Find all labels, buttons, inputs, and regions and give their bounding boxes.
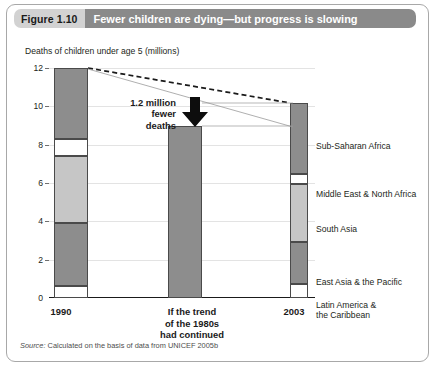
legend-item-east-asia-pacific: East Asia & the Pacific (316, 277, 402, 287)
annotation-line-2: fewer (120, 108, 176, 119)
legend-item-middle-east-north-africa: Middle East & North Africa (316, 189, 416, 199)
bar-2003-segment-sub-saharan-africa (290, 103, 308, 174)
tick-mark-4 (45, 221, 49, 222)
tick-mark-12 (45, 68, 49, 69)
tick-label-2: 2 (25, 255, 43, 265)
x-axis-label-mid-line-1: If the trend (140, 306, 244, 318)
tick-label-0: 0 (25, 293, 43, 303)
x-axis-label-mid-line-3: had continued (140, 329, 244, 341)
x-axis-label-mid-line-2: of the 1980s (140, 318, 244, 330)
annotation-line-1: 1.2 million (120, 97, 176, 108)
tick-mark-6 (45, 183, 49, 184)
bar-2003-segment-latin-america-caribbean (290, 284, 308, 298)
tick-label-12: 12 (25, 63, 43, 73)
bar-if-trend-continued (168, 126, 202, 298)
tick-label-8: 8 (25, 140, 43, 150)
bar-1990-segment-latin-america-caribbean (54, 286, 88, 298)
bar-2003-segment-south-asia (290, 184, 308, 242)
bar-2003-segment-east-asia-pacific (290, 242, 308, 284)
tick-mark-10 (45, 106, 49, 107)
bar-1990 (54, 68, 88, 298)
figure-container: Figure 1.10 Fewer children are dying—but… (0, 0, 435, 369)
y-axis-caption: Deaths of children under age 5 (millions… (25, 46, 179, 56)
legend-item-latin-america-caribbean: Latin America & the Caribbean (316, 300, 376, 320)
bar-1990-segment-east-asia-pacific (54, 223, 88, 286)
x-axis-label-if-trend-continued: If the trend of the 1980s had continued (140, 306, 244, 341)
tick-label-10: 10 (25, 101, 43, 111)
legend-item-south-asia: South Asia (316, 224, 357, 234)
figure-title: Fewer children are dying—but progress is… (85, 9, 416, 28)
figure-tag-number: 1.10 (57, 13, 78, 25)
bar-1990-segment-middle-east-north-africa (54, 139, 88, 156)
legend-item-sub-saharan-africa: Sub-Saharan Africa (316, 141, 391, 151)
figure-header: Figure 1.10 Fewer children are dying—but… (14, 9, 416, 28)
source-text: Calculated on the basis of data from UNI… (48, 341, 219, 350)
x-axis-label-1990: 1990 (31, 306, 91, 318)
bar-2003-segment-middle-east-north-africa (290, 174, 308, 184)
tick-label-6: 6 (25, 178, 43, 188)
source-label: Source: (20, 341, 45, 350)
figure-tag: Figure 1.10 (14, 9, 85, 28)
x-axis-label-2003: 2003 (268, 306, 320, 318)
tick-mark-8 (45, 145, 49, 146)
annotation-text: 1.2 million fewer deaths (120, 97, 176, 131)
down-arrow-icon (181, 97, 209, 128)
bar-1990-segment-sub-saharan-africa (54, 68, 88, 139)
annotation-line-3: deaths (120, 120, 176, 131)
gridline-12 (49, 68, 315, 69)
bar-2003 (290, 103, 308, 298)
legend: Sub-Saharan Africa Middle East & North A… (316, 62, 430, 307)
figure-tag-word: Figure (21, 13, 54, 25)
tick-label-4: 4 (25, 216, 43, 226)
tick-mark-2 (45, 260, 49, 261)
source-note: Source: Calculated on the basis of data … (20, 341, 218, 350)
bar-1990-segment-south-asia (54, 156, 88, 223)
